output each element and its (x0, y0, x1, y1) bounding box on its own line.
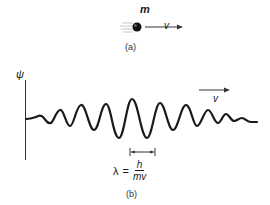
wave-packet (26, 99, 257, 138)
motion-streaks-icon (120, 23, 133, 32)
lambda-symbol: λ (113, 165, 119, 177)
velocity-arrow-b (199, 88, 230, 93)
caption-b: (b) (126, 189, 137, 199)
equals-sign: = (123, 165, 129, 177)
psi-axis-label: ψ (16, 68, 24, 80)
fraction: h mv (133, 159, 146, 182)
velocity-label-b: v (213, 93, 218, 104)
numerator: h (135, 159, 145, 171)
velocity-label-a: v (164, 20, 169, 31)
particle-ball (133, 23, 142, 32)
caption-a: (a) (125, 42, 136, 52)
wavelength-formula: λ = h mv (113, 159, 146, 182)
mass-label: m (140, 3, 150, 15)
wavelength-bracket (130, 148, 155, 156)
denominator: mv (133, 171, 146, 182)
